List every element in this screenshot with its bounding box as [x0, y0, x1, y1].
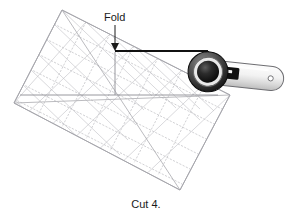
ruler-body	[14, 10, 230, 190]
cutter-handle-hole	[268, 76, 274, 82]
figure-caption: Cut 4.	[131, 198, 160, 210]
fold-label: Fold	[104, 11, 125, 23]
quilting-ruler	[14, 10, 230, 190]
quilting-cut-diagram: Fold Cut 4.	[0, 0, 293, 221]
